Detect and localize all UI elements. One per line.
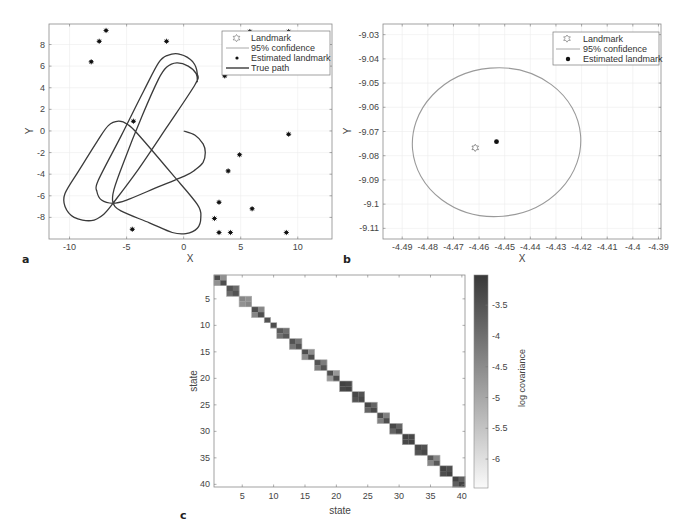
y-tick-label: 2 — [40, 104, 45, 114]
heatmap-cell — [446, 471, 452, 477]
y-tick-label: 5 — [205, 294, 210, 304]
y-tick-label: -9.05 — [358, 78, 379, 88]
heatmap-cell — [327, 376, 333, 382]
heatmap-cell — [377, 418, 383, 424]
legend-landmark: Landmark — [251, 33, 292, 43]
heatmap-cell — [308, 349, 314, 355]
covariance-block — [427, 455, 440, 466]
heatmap-cell — [277, 328, 283, 334]
covariance-block — [327, 370, 340, 381]
x-tick-label: 30 — [394, 491, 404, 501]
heatmap-cell — [289, 344, 295, 350]
heatmap-cell — [302, 349, 308, 355]
heatmap-cell — [346, 386, 352, 392]
heatmap-cell — [396, 429, 402, 435]
heatmap-cell — [365, 408, 371, 414]
x-tick-label: -4.47 — [443, 242, 464, 252]
heatmap-cell — [233, 286, 239, 292]
covariance-block — [302, 349, 315, 360]
panel-c-xlabel: state — [329, 505, 351, 516]
colorbar — [474, 275, 488, 488]
heatmap-cell — [239, 296, 245, 302]
x-tick-label: -4.48 — [418, 242, 439, 252]
covariance-block — [352, 392, 365, 403]
covariance-block — [390, 423, 403, 434]
y-tick-label: 10 — [200, 320, 210, 330]
heatmap-cell — [427, 455, 433, 461]
y-tick-label: -2 — [37, 148, 45, 158]
y-tick-label: -6 — [37, 191, 45, 201]
panel-b-xlabel: X — [519, 253, 526, 264]
x-tick-label: 35 — [425, 491, 435, 501]
panel-b: -4.49-4.48-4.47-4.46-4.45-4.44-4.43-4.42… — [342, 24, 669, 266]
covariance-block — [239, 296, 252, 307]
estimated-landmark-marker — [494, 139, 499, 144]
heatmap-cell — [402, 439, 408, 445]
x-tick-label: -10 — [63, 242, 76, 252]
heatmap-cell — [314, 360, 320, 366]
heatmap-cell — [327, 370, 333, 376]
panel-b-legend: Landmark 95% confidence Estimated landma… — [553, 32, 663, 65]
covariance-block — [270, 323, 276, 329]
heatmap-cell — [352, 392, 358, 398]
x-tick-label: 5 — [240, 491, 245, 501]
x-tick-label: -4.39 — [648, 242, 669, 252]
heatmap-cell — [421, 450, 427, 456]
y-tick-label: 25 — [200, 400, 210, 410]
heatmap-cell — [371, 402, 377, 408]
y-tick-label: 40 — [200, 479, 210, 489]
y-tick-label: -9.03 — [358, 30, 379, 40]
heatmap-cell — [383, 413, 389, 419]
y-tick-label: -4 — [37, 169, 45, 179]
y-tick-label: 6 — [40, 61, 45, 71]
heatmap-cell — [427, 461, 433, 467]
heatmap-cell — [421, 445, 427, 451]
heatmap-cell — [340, 381, 346, 387]
covariance-block — [277, 328, 290, 339]
y-tick-label: -9.1 — [363, 199, 379, 209]
x-tick-label: -4.4 — [625, 242, 641, 252]
x-tick-label: -4.46 — [469, 242, 490, 252]
heatmap-cell — [415, 445, 421, 451]
panel-c-label: c — [180, 509, 187, 522]
y-tick-label: 8 — [40, 40, 45, 50]
y-tick-label: 4 — [40, 83, 45, 93]
heatmap-cell — [214, 280, 220, 286]
heatmap-cell — [296, 344, 302, 350]
x-tick-label: -4.49 — [392, 242, 413, 252]
panel-c-ylabel: state — [188, 370, 199, 392]
heatmap-cell — [452, 476, 458, 482]
y-tick-label: -9.11 — [359, 223, 379, 233]
panel-a: -10-50510-8-6-4-202468 X Y a Landmark 95… — [22, 24, 332, 266]
x-tick-label: 10 — [293, 242, 303, 252]
heatmap-cell — [321, 360, 327, 366]
heatmap-cell — [220, 275, 226, 281]
heatmap-cell — [365, 402, 371, 408]
heatmap-cell — [233, 291, 239, 297]
heatmap-cell — [446, 466, 452, 472]
covariance-block — [252, 307, 265, 318]
legend-landmark: Landmark — [583, 34, 624, 44]
legend-true-path: True path — [251, 63, 289, 73]
heatmap-cell — [270, 323, 276, 329]
panel-a-ylabel: Y — [24, 127, 35, 134]
heatmap-cell — [409, 439, 415, 445]
heatmap-cell — [227, 286, 233, 292]
heatmap-cell — [352, 397, 358, 403]
x-tick-label: -4.41 — [597, 242, 618, 252]
heatmap-cell — [440, 471, 446, 477]
heatmap-cell — [227, 291, 233, 297]
colorbar-label: log covariance — [517, 349, 527, 407]
covariance-block — [289, 339, 302, 350]
covariance-block — [365, 402, 378, 413]
colorbar-tick-label: -5 — [492, 393, 500, 403]
heatmap-cell — [396, 423, 402, 429]
covariance-block — [377, 413, 390, 424]
heatmap-cell — [358, 397, 364, 403]
estimated-landmark-legend-icon — [235, 56, 238, 59]
colorbar-tick-label: -5.5 — [492, 423, 508, 433]
figure: -10-50510-8-6-4-202468 X Y a Landmark 95… — [0, 0, 689, 531]
x-tick-label: -5 — [123, 242, 131, 252]
panel-a-xlabel: X — [187, 253, 194, 264]
heatmap-cell — [402, 434, 408, 440]
